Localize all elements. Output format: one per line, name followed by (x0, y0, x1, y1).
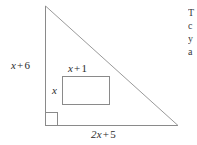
right-angle-marker (46, 113, 58, 126)
label-base-side-operator: + (102, 128, 110, 140)
label-rectangle-height: x (52, 85, 57, 96)
cropped-text-line: c (188, 19, 197, 32)
cropped-text-line: T (188, 6, 197, 19)
label-vertical-side-operator: + (16, 59, 24, 71)
label-rectangle-width-operator: + (73, 62, 81, 74)
label-rectangle-height-variable: x (52, 84, 57, 96)
cropped-text-line: y (188, 32, 197, 45)
label-rectangle-width-constant: 1 (82, 62, 88, 74)
label-rectangle-width: x+1 (68, 63, 87, 74)
inscribed-rectangle (63, 77, 110, 105)
label-base-side-constant: 5 (110, 128, 116, 140)
label-base-side-variable: 2x (91, 128, 102, 140)
label-base-side: 2x+5 (91, 129, 116, 140)
triangle-hypotenuse (46, 6, 179, 126)
label-vertical-side: x+6 (11, 60, 30, 71)
cropped-problem-text: T c y a (188, 6, 197, 58)
label-vertical-side-constant: 6 (25, 59, 31, 71)
cropped-text-line: a (188, 45, 197, 58)
figure-canvas: x+6 x+1 x 2x+5 T c y a (0, 0, 197, 145)
geometry-figure (0, 0, 197, 145)
